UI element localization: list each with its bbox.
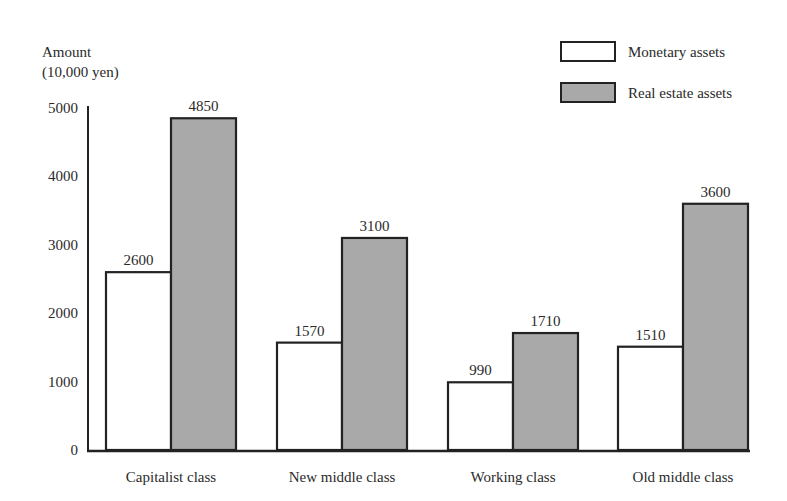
bar-value-label: 3600: [701, 184, 731, 200]
y-tick-label: 0: [71, 442, 79, 458]
x-category-label: Old middle class: [633, 469, 734, 485]
y-tick-label: 3000: [48, 237, 78, 253]
legend: Monetary assetsReal estate assets: [561, 42, 732, 102]
bar-real-estate: [513, 333, 578, 450]
bar-monetary: [106, 272, 171, 450]
bar-value-label: 1570: [295, 323, 325, 339]
bar-monetary: [277, 343, 342, 450]
bar-value-label: 4850: [189, 98, 219, 114]
x-category-label: Working class: [470, 469, 555, 485]
bar-chart: Amount (10,000 yen) Monetary assetsReal …: [0, 0, 787, 501]
y-axis-label-line1: Amount: [42, 44, 92, 60]
legend-swatch: [561, 83, 615, 102]
bar-monetary: [618, 347, 683, 450]
y-axis-ticks: 010002000300040005000: [48, 100, 78, 458]
y-tick-label: 2000: [48, 305, 78, 321]
bar-real-estate: [171, 118, 236, 450]
bar-value-label: 2600: [124, 252, 154, 268]
legend-label: Real estate assets: [628, 85, 732, 101]
y-tick-label: 1000: [48, 374, 78, 390]
y-tick-label: 5000: [48, 100, 78, 116]
bars: 2600485015703100990171015103600: [106, 98, 748, 450]
x-category-label: New middle class: [289, 469, 396, 485]
x-axis-labels: Capitalist classNew middle classWorking …: [126, 469, 734, 485]
bar-value-label: 1710: [531, 313, 561, 329]
legend-swatch: [561, 42, 615, 61]
bar-monetary: [448, 382, 513, 450]
bar-value-label: 3100: [360, 218, 390, 234]
bar-real-estate: [683, 204, 748, 450]
legend-label: Monetary assets: [628, 44, 725, 60]
bar-value-label: 1510: [636, 327, 666, 343]
bar-value-label: 990: [469, 362, 492, 378]
bar-real-estate: [342, 238, 407, 450]
x-category-label: Capitalist class: [126, 469, 217, 485]
y-tick-label: 4000: [48, 168, 78, 184]
y-axis-label-line2: (10,000 yen): [42, 64, 119, 81]
